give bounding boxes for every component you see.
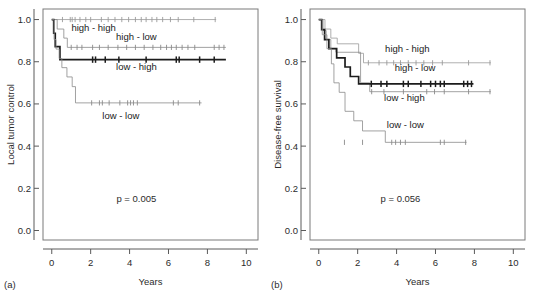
y-tick-label: 1.0 [18, 14, 31, 25]
panel-a: 0.00.20.40.60.81.00246810YearsLocal tumo… [0, 0, 267, 293]
x-tick-label: 0 [316, 257, 321, 268]
panel-b: 0.00.20.40.60.81.00246810YearsDisease-fr… [267, 0, 534, 293]
y-axis: 0.00.20.40.60.81.0 [18, 9, 39, 240]
curve-label: high - low [395, 62, 436, 73]
y-tick-label: 1.0 [285, 14, 298, 25]
x-axis: 0246810 [43, 249, 258, 268]
y-tick-label: 0.2 [18, 183, 31, 194]
curve-label: high - high [71, 22, 115, 33]
y-axis-title: Disease-free survival [272, 80, 283, 169]
y-axis-title: Local tumor control [5, 84, 16, 165]
plot-frame [43, 9, 258, 240]
curve-label: low - high [384, 92, 425, 103]
y-tick-label: 0.4 [18, 141, 31, 152]
x-tick-label: 6 [166, 257, 171, 268]
curve-label: low - low [387, 119, 424, 130]
y-tick-label: 0.6 [18, 98, 31, 109]
panel-tag: (b) [271, 279, 283, 290]
y-axis: 0.00.20.40.60.81.0 [285, 9, 306, 240]
y-tick-label: 0.6 [285, 98, 298, 109]
y-tick-label: 0.0 [285, 225, 298, 236]
plot-area-b: 0.00.20.40.60.81.00246810YearsDisease-fr… [267, 0, 534, 293]
pvalue-label: p = 0.005 [116, 193, 156, 204]
kaplan-meier-figure: 0.00.20.40.60.81.00246810YearsLocal tumo… [0, 0, 534, 293]
y-tick-label: 0.8 [18, 56, 31, 67]
y-tick-label: 0.8 [285, 56, 298, 67]
x-axis-title: Years [139, 276, 163, 287]
x-tick-label: 2 [355, 257, 360, 268]
x-axis: 0246810 [310, 249, 525, 268]
plot-area-a: 0.00.20.40.60.81.00246810YearsLocal tumo… [0, 0, 267, 293]
x-tick-label: 2 [88, 257, 93, 268]
x-tick-label: 8 [472, 257, 477, 268]
curve-label: high - high [385, 43, 429, 54]
x-tick-label: 8 [205, 257, 210, 268]
x-tick-label: 10 [508, 257, 519, 268]
y-tick-label: 0.4 [285, 141, 298, 152]
km-curve [319, 20, 491, 63]
pvalue-label: p = 0.056 [381, 193, 421, 204]
y-tick-label: 0.2 [285, 183, 298, 194]
x-tick-label: 0 [49, 257, 54, 268]
x-tick-label: 10 [241, 257, 252, 268]
panel-tag: (a) [4, 279, 16, 290]
curve-label: low - low [102, 110, 139, 121]
y-tick-label: 0.0 [18, 225, 31, 236]
x-tick-label: 6 [433, 257, 438, 268]
x-tick-label: 4 [127, 257, 132, 268]
x-axis-title: Years [406, 276, 430, 287]
curve-label: low - high [116, 61, 157, 72]
x-tick-label: 4 [394, 257, 399, 268]
curve-label: high - low [116, 31, 157, 42]
km-curve [319, 20, 491, 92]
